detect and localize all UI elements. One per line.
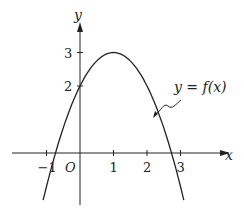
svg-text:3: 3 [64,46,72,61]
annotation-arrow [153,111,158,118]
svg-text:−1: −1 [38,160,57,175]
y-axis-label: y [73,7,83,23]
origin-label: O [65,160,76,175]
curve-f [43,53,184,201]
curve-label: y = f(x) [173,79,227,95]
svg-text:2: 2 [143,160,151,175]
ticks [47,53,181,157]
svg-text:3: 3 [177,160,185,175]
x-axis-label: x [225,147,233,163]
x-tick-labels: −1123 [38,160,185,175]
y-tick-labels: 23 [64,46,72,95]
function-graph: x y O y = f(x) −1123 23 [0,0,244,215]
svg-text:2: 2 [64,79,72,94]
annotation-leader [156,100,181,114]
svg-text:1: 1 [110,160,118,175]
y-axis [77,22,83,205]
x-axis [12,150,230,156]
